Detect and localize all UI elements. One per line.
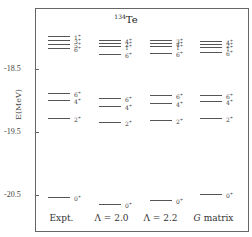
- column-label: G matrix: [186, 213, 241, 223]
- energy-level-line: [200, 44, 222, 45]
- energy-level-line: [99, 98, 121, 99]
- spin-label: 6+: [176, 92, 183, 100]
- spin-label: 0+: [125, 201, 132, 209]
- energy-level-line: [200, 52, 222, 53]
- y-tick-label: -18.5: [4, 64, 21, 73]
- energy-level-line: [200, 101, 222, 102]
- energy-level-line: [150, 43, 172, 44]
- spin-label: 2+: [176, 117, 183, 125]
- y-tick: [35, 132, 39, 133]
- spin-label: 1+: [125, 43, 132, 51]
- energy-level-line: [200, 41, 222, 42]
- energy-level-line: [200, 118, 222, 119]
- energy-level-line: [99, 204, 121, 205]
- energy-level-line: [48, 36, 70, 37]
- spin-label: 0+: [226, 191, 233, 199]
- spin-label: 6+: [176, 50, 183, 58]
- energy-level-line: [48, 118, 70, 119]
- spin-label: 6+: [226, 49, 233, 57]
- energy-level-line: [150, 103, 172, 104]
- column-label: Λ = 2.2: [133, 213, 188, 223]
- spin-label: 4+: [226, 98, 233, 106]
- spin-label: 0+: [74, 194, 81, 202]
- spin-label: 4+: [176, 100, 183, 108]
- spin-label: 2+: [226, 115, 233, 123]
- mass-number: 134: [114, 13, 125, 20]
- energy-level-line: [150, 120, 172, 121]
- energy-level-line: [150, 40, 172, 41]
- energy-level-line: [200, 95, 222, 96]
- energy-level-line: [150, 46, 172, 47]
- y-tick-label: -19.5: [4, 127, 21, 136]
- energy-level-line: [150, 200, 172, 201]
- y-tick: [35, 195, 39, 196]
- spin-label: 0+: [176, 197, 183, 205]
- energy-level-line: [200, 47, 222, 48]
- nucleus-title: 134Te: [0, 13, 252, 25]
- energy-level-line: [99, 122, 121, 123]
- energy-level-line: [48, 40, 70, 41]
- column-label: Λ = 2.0: [84, 213, 139, 223]
- energy-level-line: [99, 106, 121, 107]
- energy-level-line: [150, 95, 172, 96]
- spin-label: 4+: [125, 103, 132, 111]
- energy-level-line: [99, 43, 121, 44]
- energy-level-line: [48, 100, 70, 101]
- energy-level-line: [48, 197, 70, 198]
- energy-level-line: [200, 194, 222, 195]
- energy-level-line: [99, 54, 121, 55]
- spin-label: 6+: [74, 45, 81, 53]
- spin-label: 6+: [125, 51, 132, 59]
- element-symbol: Te: [126, 14, 138, 25]
- column-label: Expt.: [34, 213, 89, 223]
- energy-level-line: [48, 44, 70, 45]
- energy-level-line: [150, 53, 172, 54]
- energy-level-line: [99, 46, 121, 47]
- spin-label: 6+: [125, 95, 132, 103]
- spin-label: 4+: [74, 97, 81, 105]
- spin-label: 2+: [125, 119, 132, 127]
- y-tick: [35, 69, 39, 70]
- y-axis-label: E(MeV): [14, 85, 23, 125]
- energy-level-line: [48, 48, 70, 49]
- energy-level-line: [99, 40, 121, 41]
- spin-label: 2+: [74, 115, 81, 123]
- energy-level-line: [48, 93, 70, 94]
- y-tick-label: -20.5: [4, 190, 21, 199]
